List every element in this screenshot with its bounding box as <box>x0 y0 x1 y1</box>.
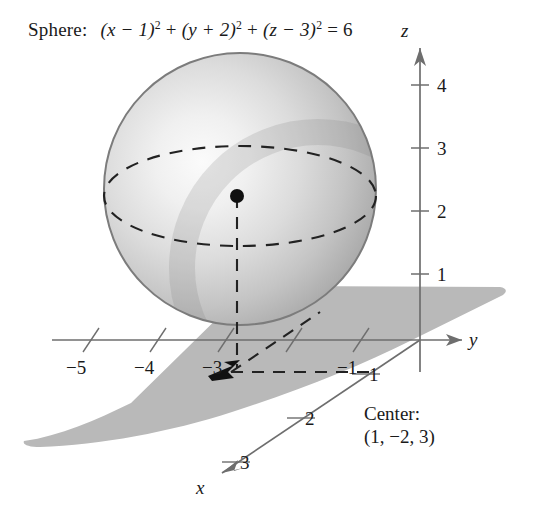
equation-exponent-x: 2 <box>155 19 161 32</box>
equation-rhs: 6 <box>343 19 353 40</box>
z-tick-label-4: 4 <box>437 76 447 95</box>
z-tick-label-1: 1 <box>437 265 447 284</box>
equation-exponent-z: 2 <box>316 19 322 32</box>
equation-term-x: (x − 1) <box>100 19 154 40</box>
x-tick-label-2: 2 <box>305 409 315 428</box>
z-axis-label: z <box>401 21 408 40</box>
x-tick-label-3: 3 <box>240 453 250 472</box>
equation-title-prefix: Sphere: <box>28 19 87 40</box>
equation-term-y: (y + 2) <box>182 19 236 40</box>
equation-equals: = <box>327 19 338 40</box>
center-annotation-coordinates: (1, −2, 3) <box>364 427 435 446</box>
y-tick-label-minus1: −1 <box>337 358 357 377</box>
sphere-diagram-figure: Sphere: (x − 1)2 + (y + 2)2 + (z − 3)2 =… <box>0 0 533 506</box>
diagram-canvas <box>0 0 533 506</box>
equation-plus-1: + <box>166 19 177 40</box>
y-tick-label-minus5: −5 <box>66 358 86 377</box>
x-tick-label-1: 1 <box>369 365 379 384</box>
z-tick-label-3: 3 <box>437 139 447 158</box>
equation-plus-2: + <box>247 19 258 40</box>
x-axis-label: x <box>196 478 204 497</box>
y-axis-label: y <box>469 330 477 349</box>
center-annotation-heading: Center: <box>364 403 420 424</box>
z-tick-label-2: 2 <box>437 202 447 221</box>
center-annotation: Center: (1, −2, 3) <box>364 404 435 446</box>
equation-exponent-y: 2 <box>236 19 242 32</box>
equation-term-z: (z − 3) <box>263 19 316 40</box>
y-tick-label-minus4: −4 <box>134 358 154 377</box>
y-tick-label-minus3: −3 <box>202 358 222 377</box>
center-dot <box>230 189 244 203</box>
equation-title: Sphere: (x − 1)2 + (y + 2)2 + (z − 3)2 =… <box>28 20 353 39</box>
